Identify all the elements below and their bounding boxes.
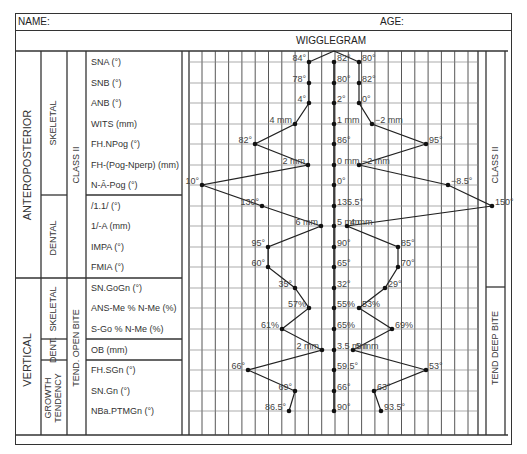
- right-point: [396, 265, 401, 270]
- row-label: N-Â-Pog (°): [91, 180, 138, 190]
- row-label: FH.NPog (°): [91, 139, 140, 149]
- group-anteroposterior: ANTEROPOSTERIOR: [21, 110, 33, 221]
- right-point: [424, 142, 429, 147]
- mid-value: 55%: [337, 299, 355, 309]
- mid-point: [332, 60, 337, 65]
- row-label: SN.Gn (°): [91, 386, 130, 396]
- right-point: [383, 286, 388, 291]
- left-value: 35°: [278, 279, 292, 289]
- mid-point: [332, 142, 337, 147]
- mid-point: [332, 224, 337, 229]
- mid-point: [332, 163, 337, 168]
- right-point: [372, 389, 377, 394]
- mid-value: 65%: [337, 320, 355, 330]
- mid-value: 90°: [337, 238, 351, 248]
- right-value: 4 mm: [350, 217, 373, 227]
- mid-value: 80°: [337, 74, 351, 84]
- row-label: FH.SGn (°): [91, 365, 136, 375]
- right-value: 93.5°: [384, 402, 406, 412]
- left-value: 2 mm: [283, 156, 306, 166]
- tend-deep-bite: TEND DEEP BITE: [490, 311, 500, 385]
- left-point: [307, 81, 312, 86]
- group-skeletal-ap: SKELETAL: [48, 101, 58, 146]
- left-value: 86.5°: [265, 402, 287, 412]
- left-value: 10°: [185, 176, 199, 186]
- left-point: [320, 348, 325, 353]
- mid-point: [332, 81, 337, 86]
- row-label: /1.1/ (°): [91, 201, 121, 211]
- mid-point: [332, 286, 337, 291]
- right-value: 85°: [401, 238, 415, 248]
- left-point: [253, 142, 258, 147]
- left-point: [246, 368, 251, 373]
- row-label: S-Go % N-Me (%): [91, 324, 164, 334]
- row-label: SNA (°): [91, 57, 121, 67]
- right-trace: [347, 62, 492, 411]
- mid-value: 59.5°: [337, 361, 359, 371]
- mid-value: 0°: [337, 176, 346, 186]
- right-value: 5 mm: [356, 341, 379, 351]
- mid-point: [332, 245, 337, 250]
- row-label: NBa.PTMGn (°): [91, 406, 154, 416]
- left-value: 69°: [278, 382, 292, 392]
- right-value: −8.5°: [451, 176, 473, 186]
- left-value: 61%: [261, 320, 279, 330]
- right-value: −2 mm: [375, 115, 403, 125]
- mid-value: 135.5°: [337, 197, 364, 207]
- mid-point: [332, 101, 337, 106]
- right-value: 29°: [388, 279, 402, 289]
- left-point: [306, 163, 311, 168]
- group-skeletal-v: SKELETAL: [48, 287, 58, 332]
- left-value: 78°: [292, 74, 306, 84]
- row-label: SNB (°): [91, 78, 122, 88]
- row-label: SN.GoGn (°): [91, 283, 142, 293]
- left-value: 66°: [231, 361, 245, 371]
- left-value: 57%: [288, 299, 306, 309]
- group-vertical: VERTICAL: [21, 333, 33, 387]
- left-value: 84°: [292, 53, 306, 63]
- right-point: [379, 409, 384, 414]
- row-label: IMPA (°): [91, 242, 124, 252]
- right-value: 53%: [362, 299, 380, 309]
- right-point: [370, 122, 375, 127]
- left-point: [319, 224, 324, 229]
- wigglegram-chart: SNA (°)SNB (°)ANB (°)WITS (mm)FH.NPog (°…: [0, 0, 527, 454]
- left-value: 6 mm: [296, 217, 319, 227]
- right-value: 63°: [377, 382, 391, 392]
- mid-point: [332, 348, 337, 353]
- row-label: ANS-Me % N-Me (%): [91, 303, 177, 313]
- right-point: [446, 183, 451, 188]
- left-value: 82°: [238, 135, 252, 145]
- left-value: 4 mm: [270, 115, 293, 125]
- mid-value: 1 mm: [337, 115, 360, 125]
- left-value: 4°: [297, 94, 306, 104]
- right-value: −2 mm: [362, 156, 390, 166]
- left-trace: [202, 62, 322, 411]
- mid-point: [332, 183, 337, 188]
- right-value: 82°: [362, 74, 376, 84]
- mid-point: [332, 122, 337, 127]
- right-value: 80°: [362, 53, 376, 63]
- row-label: FMIA (°): [91, 262, 124, 272]
- right-value: 95°: [429, 135, 443, 145]
- left-point: [307, 306, 312, 311]
- right-point: [396, 245, 401, 250]
- right-point: [357, 101, 362, 106]
- right-point: [357, 81, 362, 86]
- left-point: [293, 122, 298, 127]
- right-value: 69%: [395, 320, 413, 330]
- right-point: [357, 306, 362, 311]
- row-label: WITS (mm): [91, 119, 137, 129]
- left-point: [287, 409, 292, 414]
- mid-value: 82°: [337, 53, 351, 63]
- left-point: [280, 327, 285, 332]
- group-growth-1: GROWTH: [43, 378, 53, 419]
- right-point: [357, 60, 362, 65]
- left-point: [307, 101, 312, 106]
- mid-value: 0 mm: [337, 156, 360, 166]
- left-value: 130°: [240, 197, 259, 207]
- mid-point: [332, 327, 337, 332]
- row-label: FH-(Pog-Nperp) (mm): [91, 160, 179, 170]
- right-point: [424, 368, 429, 373]
- left-point: [293, 286, 298, 291]
